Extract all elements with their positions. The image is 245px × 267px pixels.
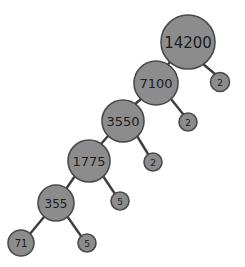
tree-node: 1775 (68, 140, 110, 182)
tree-node: 2 (144, 153, 162, 171)
tree-node: 71 (8, 230, 34, 256)
tree-node: 5 (78, 234, 96, 252)
node-label: 2 (150, 158, 156, 168)
tree-node: 2 (211, 73, 230, 92)
node-label: 14200 (164, 34, 212, 52)
factor-tree-diagram: 142002710023550217755355715 (0, 0, 245, 267)
node-label: 1775 (72, 154, 105, 169)
tree-node: 7100 (134, 61, 178, 105)
tree-node: 5 (111, 192, 129, 210)
node-label: 2 (185, 118, 191, 128)
node-label: 5 (117, 197, 123, 207)
tree-node: 3550 (102, 100, 144, 142)
node-label: 2 (217, 78, 223, 88)
tree-node: 2 (179, 113, 197, 131)
node-label: 3550 (106, 114, 139, 129)
node-label: 355 (45, 197, 68, 211)
tree-node: 14200 (161, 15, 215, 69)
node-label: 5 (84, 239, 90, 249)
tree-node: 355 (38, 185, 74, 221)
node-label: 7100 (139, 76, 172, 91)
node-label: 71 (15, 238, 28, 249)
